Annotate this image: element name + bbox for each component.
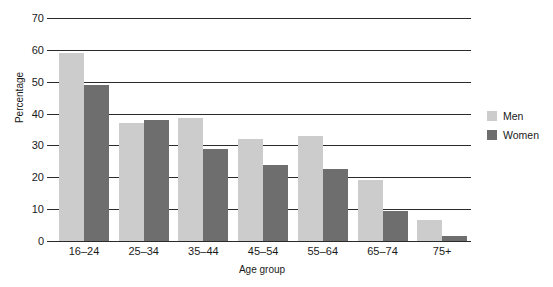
- bar-group: [119, 18, 169, 241]
- x-tick-label: 65–74: [353, 245, 413, 257]
- y-tick-label: 10: [32, 204, 44, 215]
- x-axis-line: [53, 241, 471, 242]
- x-axis-tick-labels: 16–2425–3435–4445–5455–6465–7475+: [53, 245, 471, 261]
- bar-men-25–34: [119, 123, 144, 241]
- bar-women-55–64: [323, 169, 348, 241]
- x-tick-label: 55–64: [293, 245, 353, 257]
- legend-label: Men: [503, 110, 523, 122]
- bar-men-65–74: [358, 180, 383, 241]
- bar-women-35–44: [203, 149, 228, 241]
- x-tick-label: 35–44: [173, 245, 233, 257]
- plot-area: 010203040506070: [53, 18, 471, 241]
- bars-layer: [53, 18, 471, 241]
- y-tick-label: 50: [32, 76, 44, 87]
- bar-women-45–54: [263, 165, 288, 241]
- legend: MenWomen: [487, 108, 551, 146]
- bar-chart: Percentage 010203040506070 16–2425–3435–…: [0, 0, 553, 287]
- bar-women-65–74: [383, 211, 408, 241]
- y-tick-label: 0: [38, 236, 44, 247]
- bar-group: [417, 18, 467, 241]
- bar-group: [238, 18, 288, 241]
- legend-swatch-women: [487, 130, 497, 140]
- legend-label: Women: [503, 129, 539, 141]
- bar-group: [59, 18, 109, 241]
- legend-item-women: Women: [487, 127, 551, 143]
- y-tick-label: 70: [32, 13, 44, 24]
- bar-women-25–34: [144, 120, 169, 241]
- legend-item-men: Men: [487, 108, 551, 124]
- legend-swatch-men: [487, 111, 497, 121]
- bar-women-16–24: [84, 85, 109, 241]
- bar-men-55–64: [298, 136, 323, 241]
- bar-group: [178, 18, 228, 241]
- x-tick-label: 16–24: [54, 245, 114, 257]
- x-tick-label: 75+: [412, 245, 472, 257]
- x-tick-label: 25–34: [114, 245, 174, 257]
- y-tick-label: 60: [32, 44, 44, 55]
- y-tick-label: 20: [32, 172, 44, 183]
- bar-men-35–44: [178, 118, 203, 241]
- bar-group: [298, 18, 348, 241]
- y-tick-label: 40: [32, 108, 44, 119]
- y-tick-label: 30: [32, 140, 44, 151]
- bar-men-16–24: [59, 53, 84, 241]
- bar-men-75+: [417, 220, 442, 241]
- x-tick-label: 45–54: [233, 245, 293, 257]
- bar-group: [358, 18, 408, 241]
- x-axis-title: Age group: [53, 264, 471, 275]
- bar-men-45–54: [238, 139, 263, 241]
- y-axis-title: Percentage: [14, 53, 25, 143]
